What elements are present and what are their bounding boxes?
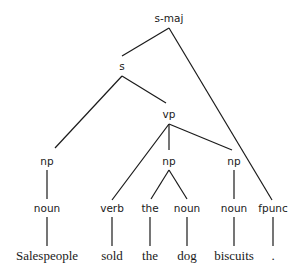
node-the: the — [141, 202, 158, 214]
node-np-subject: np — [40, 155, 54, 167]
node-s-maj: s-maj — [155, 12, 184, 24]
edge-vp-verb — [112, 124, 169, 200]
node-noun-biscuits: noun — [221, 202, 247, 214]
node-np-object2: np — [227, 155, 241, 167]
word-biscuits: biscuits — [214, 248, 254, 263]
edge-smaj-fpunc — [169, 28, 272, 200]
edge-np2-noun — [169, 170, 187, 199]
node-np-object1: np — [162, 155, 176, 167]
word-dog: dog — [177, 248, 197, 263]
node-noun-dog: noun — [174, 202, 200, 214]
word-salespeople: Salespeople — [16, 248, 78, 263]
edge-s-np — [55, 76, 122, 148]
word-period: . — [271, 248, 274, 263]
edge-np2-the — [151, 170, 169, 199]
parse-tree-diagram: s-maj s vp np np np noun verb the noun n… — [0, 0, 301, 276]
node-noun-subject: noun — [34, 202, 60, 214]
word-the: the — [142, 248, 158, 263]
node-s: s — [119, 60, 124, 72]
tree-leaves: Salespeople sold the dog biscuits . — [16, 248, 275, 263]
edge-vp-np-right — [169, 124, 232, 150]
edge-s-vp — [122, 76, 166, 103]
word-sold: sold — [101, 248, 123, 263]
node-vp: vp — [163, 108, 176, 120]
node-fpunc: fpunc — [258, 202, 288, 214]
node-verb: verb — [100, 202, 124, 214]
edge-smaj-s — [122, 28, 169, 56]
